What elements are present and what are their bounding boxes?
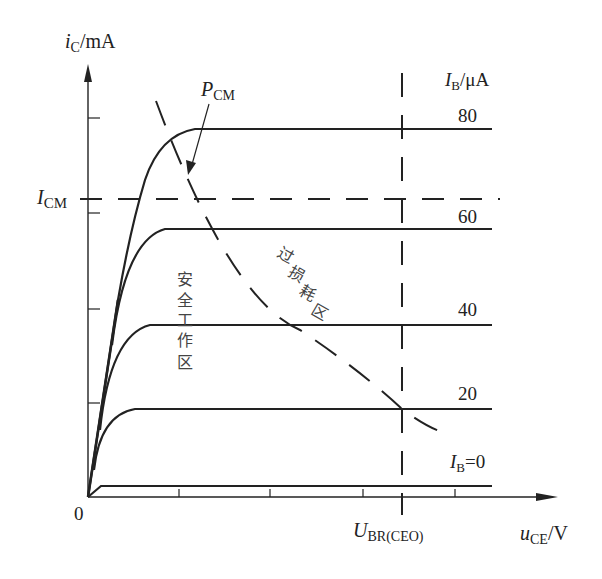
x-axis-label: uCE/V (520, 522, 568, 547)
curve-ib-20 (94, 409, 492, 470)
curve-ib-80 (88, 129, 492, 497)
svg-text:全: 全 (177, 291, 193, 310)
pcm-pointer-line (191, 104, 209, 168)
x-axis-arrow-icon (536, 493, 558, 501)
x-ticks (179, 489, 455, 497)
ib-legend-title: IB/μA (444, 69, 489, 93)
curve-ib-40 (100, 325, 492, 430)
safe-operating-region-label: 安 全 工 作 区 (177, 270, 193, 372)
curves (88, 129, 492, 497)
pcm-label: PCM (200, 78, 236, 103)
y-axis-arrow-icon (84, 64, 92, 82)
curve-label-20: 20 (458, 383, 477, 404)
curve-label-60: 60 (458, 206, 477, 227)
y-axis-label: iC/mA (65, 30, 116, 55)
y-ticks (88, 118, 100, 403)
svg-text:工: 工 (177, 311, 193, 330)
breakdown-voltage-label: UBR(CEO) (353, 519, 424, 545)
over-dissipation-region-label: 过 损 耗 区 (274, 243, 331, 324)
curve-label-40: 40 (458, 299, 477, 320)
curve-label-80: 80 (458, 105, 477, 126)
output-characteristics-diagram: iC/mA PCM ICM IB/μA 80 60 40 20 IB=0 0 U… (0, 0, 602, 579)
pcm-arrow-icon (186, 160, 196, 175)
axes (88, 74, 548, 497)
icm-label: ICM (36, 186, 67, 211)
curve-ib-0 (88, 486, 492, 497)
saturation-boundary (88, 300, 118, 497)
curve-label-ib-0: IB=0 (449, 451, 485, 475)
svg-text:区: 区 (177, 353, 193, 372)
svg-text:安: 安 (177, 270, 193, 289)
origin-label: 0 (74, 503, 84, 524)
svg-text:区: 区 (308, 300, 331, 324)
svg-text:作: 作 (177, 331, 193, 350)
